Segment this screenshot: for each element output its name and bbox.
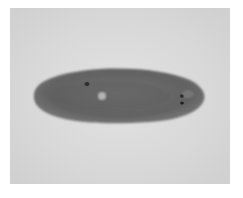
pharynx-spot (98, 92, 106, 100)
eyespot-lower (180, 101, 184, 104)
dark-spot (85, 82, 90, 86)
body-texture (50, 82, 170, 110)
head-highlight (182, 90, 194, 98)
micrograph-photo (10, 8, 230, 184)
flatworm-figure (10, 8, 230, 184)
